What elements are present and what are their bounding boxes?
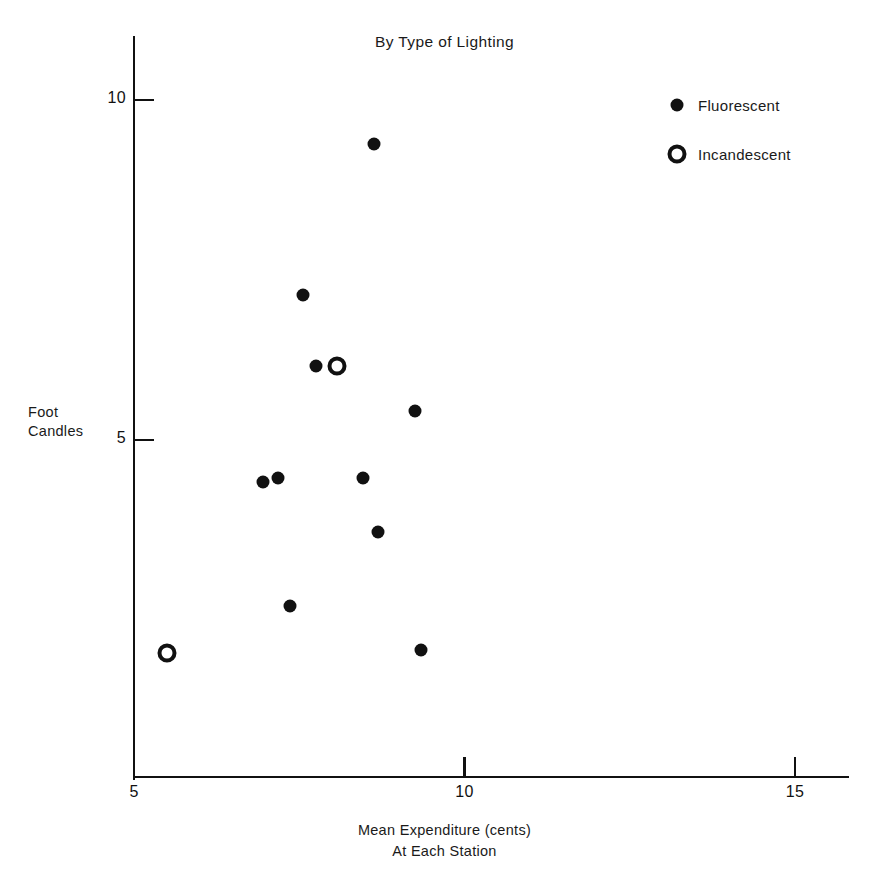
x-axis-tick xyxy=(794,757,796,776)
data-point-fluorescent xyxy=(414,644,427,657)
x-axis-line xyxy=(133,776,849,778)
y-axis-tick-label: 10 xyxy=(108,89,126,107)
x-axis-tick xyxy=(463,757,465,776)
legend-item-label: Fluorescent xyxy=(698,97,780,114)
data-point-fluorescent xyxy=(408,404,421,417)
y-axis-tick xyxy=(135,99,154,101)
y-axis-title: Foot Candles xyxy=(28,403,83,441)
legend-item-incandescent: Incandescent xyxy=(664,143,791,165)
x-axis-title-line2: At Each Station xyxy=(0,841,889,862)
x-axis-tick-label: 5 xyxy=(104,783,164,801)
x-axis-tick-label: 15 xyxy=(765,783,825,801)
data-point-fluorescent xyxy=(367,138,380,151)
data-point-fluorescent xyxy=(256,476,269,489)
data-point-fluorescent xyxy=(309,359,322,372)
data-point-fluorescent xyxy=(272,472,285,485)
legend-item-label: Incandescent xyxy=(698,146,791,163)
y-axis-tick-label: 5 xyxy=(117,429,126,447)
data-point-fluorescent xyxy=(356,472,369,485)
data-point-incandescent xyxy=(327,356,346,375)
data-point-incandescent xyxy=(158,643,177,662)
y-axis-title-line2: Candles xyxy=(28,422,83,441)
x-axis-tick-label: 10 xyxy=(435,783,495,801)
scatter-chart: By Type of Lighting 51051015 Foot Candle… xyxy=(0,0,889,877)
y-axis-title-line1: Foot xyxy=(28,403,83,422)
x-axis-title: Mean Expenditure (cents) At Each Station xyxy=(0,820,889,862)
y-axis-line xyxy=(133,36,135,780)
data-point-fluorescent xyxy=(371,525,384,538)
y-axis-tick xyxy=(135,439,154,441)
data-point-fluorescent xyxy=(283,599,296,612)
legend-item-fluorescent: Fluorescent xyxy=(664,94,780,116)
filled-circle-icon xyxy=(664,94,690,116)
open-circle-icon xyxy=(664,143,690,165)
x-axis-title-line1: Mean Expenditure (cents) xyxy=(0,820,889,841)
data-point-fluorescent xyxy=(297,289,310,302)
